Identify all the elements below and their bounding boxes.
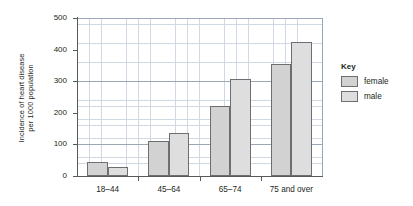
y-tick-label: 300: [21, 76, 67, 85]
x-tick-label: 75 and over: [261, 185, 322, 194]
x-group-separator: [200, 176, 201, 181]
bar-male-4: [291, 42, 312, 176]
y-tick-label: 400: [21, 45, 67, 54]
plot-right-border: [322, 18, 323, 176]
x-tick-label: 45–64: [138, 185, 199, 194]
legend-label-male: male: [364, 92, 382, 101]
x-tick-label: 65–74: [200, 185, 261, 194]
y-axis-title-line-1: Incidence of heart disease: [17, 54, 26, 143]
y-tick-label: 100: [21, 139, 67, 148]
legend-swatch-female: [341, 76, 358, 87]
bar-female-4: [271, 64, 292, 176]
y-axis-title: Incidence of heart disease per 1000 popu…: [14, 18, 38, 178]
y-tick-label: 500: [21, 13, 67, 22]
y-tick-label: 200: [21, 108, 67, 117]
bar-male-3: [230, 79, 251, 176]
plot-top-border: [77, 18, 322, 19]
y-axis-line: [77, 17, 78, 177]
legend-item-female: female: [341, 76, 411, 87]
legend-label-female: female: [364, 77, 389, 86]
legend: Key female male: [341, 62, 411, 106]
bar-female-1: [87, 162, 108, 176]
bar-female-2: [148, 141, 169, 176]
y-axis-title-line-2: per 1000 population: [26, 64, 35, 131]
legend-item-male: male: [341, 91, 411, 102]
x-group-separator: [261, 176, 262, 181]
x-tick-label: 18–44: [77, 185, 138, 194]
legend-swatch-male: [341, 91, 358, 102]
bar-female-3: [210, 106, 231, 176]
x-group-separator: [138, 176, 139, 181]
plot-area: [77, 18, 322, 176]
bar-male-1: [108, 167, 129, 176]
bar-male-2: [169, 133, 190, 176]
legend-title: Key: [341, 62, 411, 71]
y-tick-label: 0: [21, 171, 67, 180]
chart-figure: Incidence of heart disease per 1000 popu…: [0, 0, 413, 206]
